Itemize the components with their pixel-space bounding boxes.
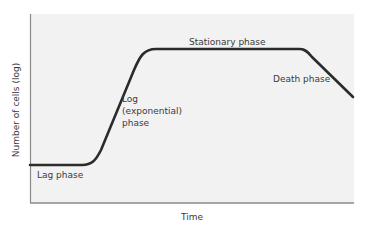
y-axis-label: Number of cells (log) xyxy=(11,63,21,157)
annotation-lag-phase: Lag phase xyxy=(37,170,84,180)
annotation-log-line3: phase xyxy=(122,118,150,128)
annotation-death-phase: Death phase xyxy=(273,74,331,84)
annotation-log-line1: Log xyxy=(122,94,138,104)
annotation-stationary-phase: Stationary phase xyxy=(189,37,266,47)
annotation-log-line2: (exponential) xyxy=(122,106,182,116)
growth-curve-chart: Lag phase Log (exponential) phase Statio… xyxy=(0,0,366,230)
x-axis-label: Time xyxy=(180,212,203,222)
